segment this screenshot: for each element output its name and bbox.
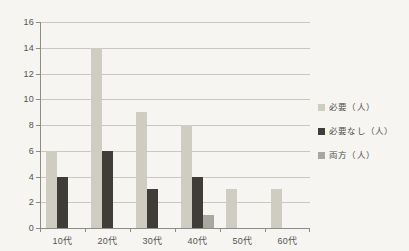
bar-40dai-hitsuyou (181, 125, 192, 228)
x-tick-mark-5 (265, 228, 266, 232)
y-tick-mark-16 (36, 22, 40, 23)
bar-40dai-ryouhou (203, 215, 214, 228)
y-tick-mark-6 (36, 151, 40, 152)
chart-legend: 必要（人） 必要なし（人） 両方（人） (318, 101, 406, 173)
y-tick-mark-2 (36, 202, 40, 203)
bar-10dai-hitsuyounashi (57, 177, 68, 229)
x-tick-label-60dai: 60代 (278, 236, 298, 246)
legend-item-hitsuyou: 必要（人） (318, 101, 406, 113)
y-tick-mark-10 (36, 99, 40, 100)
bar-20dai-hitsuyounashi (102, 151, 113, 228)
bar-group-40dai (175, 22, 220, 228)
y-tick-label-14: 14 (4, 44, 34, 53)
bar-group-10dai (40, 22, 85, 228)
x-tick-label-40dai: 40代 (188, 236, 208, 246)
legend-item-hitsuyounashi: 必要なし（人） (318, 125, 406, 137)
legend-label-ryouhou: 両方（人） (329, 151, 375, 160)
legend-label-hitsuyounashi: 必要なし（人） (329, 127, 393, 136)
x-tick-label-50dai: 50代 (233, 236, 253, 246)
bar-group-20dai (85, 22, 130, 228)
x-tick-mark-2 (130, 228, 131, 232)
y-tick-label-8: 8 (4, 121, 34, 130)
bar-group-60dai (265, 22, 310, 228)
bar-50dai-hitsuyou (226, 189, 237, 228)
bar-10dai-hitsuyou (46, 151, 57, 228)
x-axis: 10代 20代 30代 40代 50代 60代 (40, 228, 310, 251)
bar-60dai-hitsuyou (271, 189, 282, 228)
bar-30dai-hitsuyou (136, 112, 147, 228)
y-tick-mark-4 (36, 177, 40, 178)
y-tick-label-6: 6 (4, 147, 34, 156)
bar-chart-figure: 16 14 12 10 8 6 4 2 0 10代 20代 30代 40代 50… (0, 0, 409, 251)
y-axis-labels: 16 14 12 10 8 6 4 2 0 (0, 22, 34, 228)
bar-40dai-hitsuyounashi (192, 177, 203, 229)
x-tick-mark-6 (309, 228, 310, 232)
bar-20dai-hitsuyou (91, 48, 102, 228)
y-tick-label-10: 10 (4, 95, 34, 104)
x-tick-mark-4 (220, 228, 221, 232)
legend-label-hitsuyou: 必要（人） (329, 103, 375, 112)
legend-swatch-icon-hitsuyounashi (318, 128, 325, 135)
plot-area (40, 22, 310, 228)
x-tick-mark-3 (175, 228, 176, 232)
legend-item-ryouhou: 両方（人） (318, 149, 406, 161)
bar-group-30dai (130, 22, 175, 228)
y-tick-label-16: 16 (4, 18, 34, 27)
x-tick-mark-1 (85, 228, 86, 232)
y-axis-line (40, 22, 41, 229)
bar-group-50dai (220, 22, 265, 228)
y-tick-mark-8 (36, 125, 40, 126)
legend-swatch-icon-ryouhou (318, 152, 325, 159)
y-tick-mark-14 (36, 48, 40, 49)
x-tick-label-20dai: 20代 (98, 236, 118, 246)
bar-30dai-hitsuyounashi (147, 189, 158, 228)
y-tick-label-0: 0 (4, 224, 34, 233)
x-tick-label-10dai: 10代 (53, 236, 73, 246)
y-tick-label-12: 12 (4, 70, 34, 79)
x-tick-mark-0 (40, 228, 41, 232)
y-tick-label-4: 4 (4, 173, 34, 182)
x-tick-label-30dai: 30代 (143, 236, 163, 246)
y-tick-mark-12 (36, 74, 40, 75)
y-tick-label-2: 2 (4, 198, 34, 207)
legend-swatch-icon-hitsuyou (318, 104, 325, 111)
